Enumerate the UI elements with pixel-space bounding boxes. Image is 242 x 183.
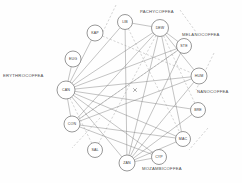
nodes-layer: LIBDEWSTEKAPEUGHUMCANBRECONMACSALZANCYP	[57, 15, 207, 172]
group-label-mozambicoffea: MOZAMBICOFFEA	[142, 166, 182, 171]
edge-can-dew	[74, 33, 153, 85]
node-mac[interactable]: MAC	[176, 132, 191, 147]
group-label-nanocoffea: NANOCOFFEA	[197, 89, 229, 94]
node-ste[interactable]: STE	[177, 39, 192, 54]
node-label-sal: SAL	[91, 148, 98, 152]
node-label-con: CON	[68, 122, 77, 126]
edge-can-cyp	[73, 95, 153, 152]
edge-lib-mac	[128, 29, 179, 133]
node-eug[interactable]: EUG	[65, 51, 81, 67]
node-bre[interactable]: BRE	[191, 103, 206, 118]
node-label-kap: KAP	[91, 31, 99, 35]
edge-ste-zan	[131, 53, 181, 156]
center-cross-icon	[133, 88, 137, 92]
node-label-zan: ZAN	[123, 161, 131, 165]
edge-zan-cyp	[135, 158, 152, 161]
node-label-ste: STE	[180, 44, 188, 48]
edge-mac-con	[80, 125, 176, 138]
node-label-can: CAN	[62, 88, 70, 92]
node-lib[interactable]: LIB	[118, 15, 133, 30]
edge-dew-sal	[99, 36, 156, 144]
node-can[interactable]: CAN	[57, 81, 75, 99]
edge-dew-zan	[129, 36, 158, 155]
edge-dew-con	[77, 34, 154, 118]
edge-can-eug	[68, 67, 71, 81]
edge-can-mac	[74, 93, 176, 136]
edge-can-con	[68, 99, 71, 116]
edge-lib-zan	[125, 30, 127, 156]
dash-top-right	[180, 10, 196, 32]
node-zan[interactable]: ZAN	[119, 155, 135, 171]
diagram-canvas: LIBDEWSTEKAPEUGHUMCANBRECONMACSALZANCYP …	[0, 0, 242, 183]
node-sal[interactable]: SAL	[88, 143, 103, 158]
node-dew[interactable]: DEW	[152, 20, 169, 37]
group-label-pachycoffea: PACHYCOFFEA	[140, 9, 174, 14]
node-label-bre: BRE	[194, 108, 202, 112]
node-hum[interactable]: HUM	[191, 68, 207, 84]
node-label-cyp: CYP	[155, 155, 163, 159]
node-label-hum: HUM	[195, 74, 203, 78]
group-label-melanocoffea: MELANOCOFFEA	[182, 32, 220, 37]
node-label-dew: DEW	[156, 26, 165, 30]
group-label-erythrocoffea: ERYTHROCOFFEA	[3, 73, 44, 78]
edge-dew-ste	[167, 33, 178, 41]
node-label-lib: LIB	[122, 20, 128, 24]
marks-layer	[133, 88, 137, 92]
network-graph: LIBDEWSTEKAPEUGHUMCANBRECONMACSALZANCYP …	[0, 0, 242, 183]
node-label-mac: MAC	[179, 137, 188, 141]
node-cyp[interactable]: CYP	[152, 150, 167, 165]
dash-right-low	[189, 128, 208, 150]
edge-can-bre	[75, 91, 191, 109]
node-kap[interactable]: KAP	[87, 25, 103, 41]
group-labels-layer: ERYTHROCOFFEAPACHYCOFFEAMELANOCOFFEANANO…	[3, 9, 229, 171]
edge-lib-dew	[132, 23, 151, 26]
node-con[interactable]: CON	[64, 116, 80, 132]
node-label-eug: EUG	[69, 57, 77, 61]
